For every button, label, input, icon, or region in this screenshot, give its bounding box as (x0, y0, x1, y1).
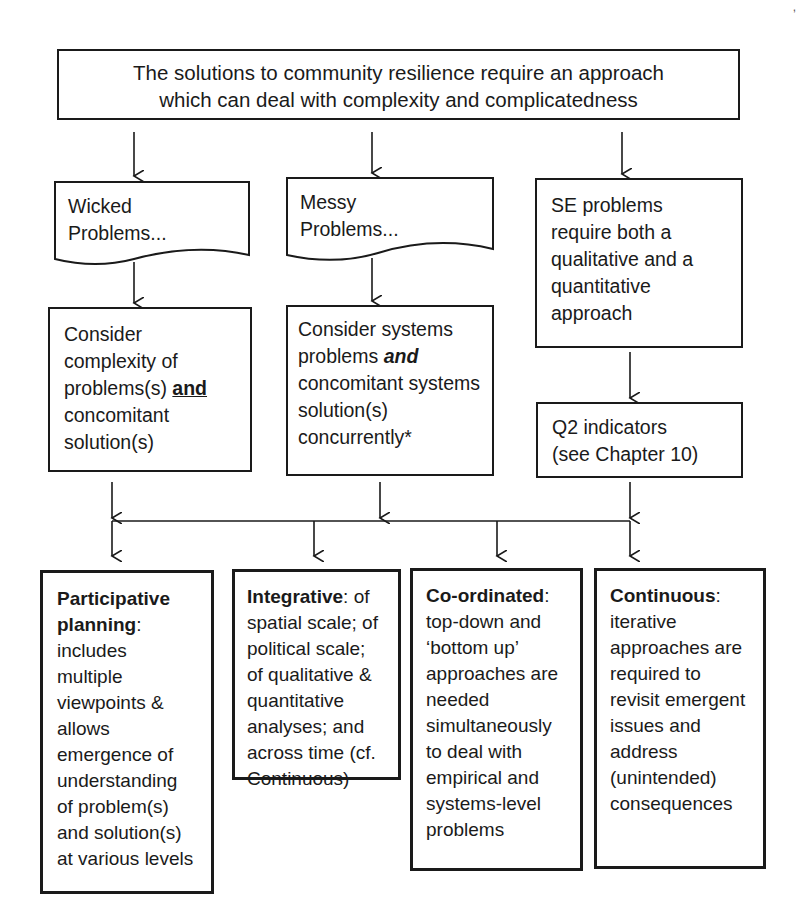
co-ordinated-title: Co-ordinated (426, 585, 544, 606)
continuous-body: : iterative approaches are required to r… (610, 585, 745, 814)
continuous-title: Continuous (610, 585, 716, 606)
participative-planning-box: Participative planning: includes multipl… (40, 570, 214, 894)
wicked-line2: Problems... (68, 220, 236, 247)
participative-planning-title: Participative planning (57, 588, 170, 635)
co-ordinated-box: Co-ordinated: top-down and ‘bottom up’ a… (410, 568, 583, 871)
se-problems-text: SE problems require both a qualitative a… (551, 194, 693, 324)
consider-systems-box: Consider systems problems and concomitan… (286, 305, 494, 476)
continuous-box: Continuous: iterative approaches are req… (594, 568, 766, 869)
integrative-body: : of spatial scale; of political scale; … (247, 586, 378, 789)
co-ordinated-body: : top-down and ‘bottom up’ approaches ar… (426, 585, 558, 840)
top-statement-box: The solutions to community resilience re… (57, 49, 740, 120)
top-statement-line1: The solutions to community resilience re… (59, 59, 738, 86)
integrative-box: Integrative: of spatial scale; of politi… (232, 569, 401, 780)
wicked-problems-box: Wicked Problems... (54, 181, 250, 265)
wicked-line1: Wicked (68, 193, 236, 220)
q2-line1: Q2 indicators (552, 414, 727, 441)
messy-problems-box: Messy Problems... (286, 177, 494, 261)
participative-planning-body: : includes multiple viewpoints & allows … (57, 614, 193, 869)
consider-left-pre: Consider complexity of problems(s) (64, 323, 178, 399)
top-statement-line2: which can deal with complexity and compl… (59, 86, 738, 113)
q2-line2: (see Chapter 10) (552, 441, 727, 468)
consider-left-post: concomitant solution(s) (64, 404, 169, 453)
consider-complexity-box: Consider complexity of problems(s) and c… (48, 307, 252, 472)
consider-mid-pre: Consider systems problems (298, 318, 453, 367)
consider-left-emphasis: and (172, 377, 207, 399)
consider-mid-emphasis: and (384, 345, 419, 367)
messy-line2: Problems... (300, 216, 480, 243)
page-corner-mark: , (793, 0, 796, 14)
messy-line1: Messy (300, 189, 480, 216)
q2-indicators-box: Q2 indicators (see Chapter 10) (536, 402, 743, 478)
integrative-title: Integrative (247, 586, 343, 607)
consider-mid-post: concomitant systems solution(s) concurre… (298, 372, 480, 448)
se-problems-box: SE problems require both a qualitative a… (535, 178, 743, 348)
